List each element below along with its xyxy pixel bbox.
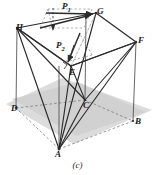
vertex-label-e: E (69, 68, 75, 77)
dot-f (135, 41, 137, 43)
p1-resultant-arrow (40, 15, 91, 28)
force-label-p2: P2 (56, 41, 65, 52)
p2-secondary-line (69, 45, 74, 61)
p1-guide-left (40, 9, 48, 28)
force-label-p1: P1 (62, 2, 71, 13)
vertex-label-b: B (135, 117, 141, 126)
figure-container: H G F E C D B A P1 P2 (c) (0, 0, 155, 175)
edge-g-f (96, 13, 136, 42)
force-p2-subscript: 2 (62, 45, 65, 52)
post-d-h (16, 28, 17, 108)
vertex-label-c: C (83, 101, 89, 110)
vertex-label-a: A (55, 150, 61, 159)
top-face-efgh (17, 13, 136, 66)
dot-b (132, 120, 134, 122)
brace-f-c (85, 42, 136, 100)
figure-caption: (c) (0, 160, 155, 170)
vertex-label-h: H (16, 23, 23, 32)
vertex-label-d: D (11, 104, 18, 113)
edge-h-g (17, 13, 96, 28)
force-p1-subscript: 1 (68, 6, 71, 13)
p1-guide-right (84, 9, 92, 28)
vertex-label-f: F (138, 36, 144, 45)
vertex-label-g: G (97, 7, 104, 16)
geometry-diagram-svg (0, 0, 155, 175)
force-p2-construction (66, 33, 92, 62)
